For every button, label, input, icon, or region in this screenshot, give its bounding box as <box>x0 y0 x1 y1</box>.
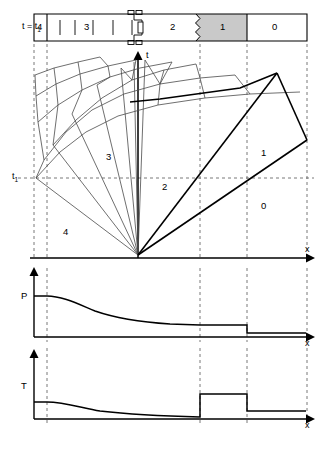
reflected-shock-path <box>277 73 307 140</box>
incident-shock-path <box>138 140 307 255</box>
expansion-fan-characteristics <box>36 60 145 255</box>
incident-char-up-3 <box>72 62 82 114</box>
incident-char-up-2 <box>53 68 58 145</box>
tube-t-axis-label: t <box>146 51 149 60</box>
xt-x-axis-label: x <box>305 245 310 254</box>
temperature-vertical-guides <box>47 348 307 424</box>
pressure-vertical-guides <box>47 268 307 342</box>
xt-region-3-label: 3 <box>106 152 111 161</box>
tube-label-region-1: 1 <box>220 22 225 31</box>
pressure-curve <box>34 296 306 333</box>
incident-char-up-4 <box>97 57 110 85</box>
temperature-y-axis-arrow <box>30 349 39 358</box>
reflected-char-5 <box>36 60 136 96</box>
pressure-x-axis-label: x <box>305 339 310 348</box>
incident-char-up-6 <box>145 60 164 84</box>
diagram-canvas <box>0 0 323 450</box>
diaphragm-icon <box>128 11 143 45</box>
xt-region-4-label: 4 <box>63 227 68 236</box>
xt-t1-label: t1 <box>12 172 18 184</box>
temperature-y-axis-label: T <box>21 381 27 390</box>
pressure-panel <box>30 267 316 342</box>
tube-label-region-4: 4 <box>37 22 42 31</box>
temperature-curve <box>34 394 306 417</box>
reflected-char-2 <box>44 75 235 160</box>
xt-region-2-label: 2 <box>162 182 167 191</box>
tube-label-region-3: 3 <box>84 22 89 31</box>
pressure-y-axis-arrow <box>30 267 39 276</box>
temperature-x-axis-label: x <box>305 421 310 430</box>
shock-and-contact-waves <box>130 73 307 255</box>
contact-surface-path <box>138 73 277 255</box>
tube-label-region-0: 0 <box>272 22 277 31</box>
incident-char-up-1 <box>35 75 44 178</box>
xt-region-1-label: 1 <box>261 148 266 157</box>
figure-root: t = t1 4 3 2 1 0 t t1 4 3 2 1 0 x P x T … <box>0 0 323 450</box>
pressure-y-axis-label: P <box>21 291 27 300</box>
fan-char-4 <box>97 85 138 255</box>
temperature-panel <box>30 348 316 424</box>
tube-label-region-2: 2 <box>170 22 175 31</box>
xt-x-axis-arrow <box>306 254 315 263</box>
xt-region-0-label: 0 <box>261 201 266 210</box>
expansion-fan-reflections <box>35 57 300 178</box>
fan-char-5 <box>121 68 138 255</box>
reflected-char-6 <box>35 57 100 75</box>
xt-t-axis-arrow <box>134 51 143 60</box>
